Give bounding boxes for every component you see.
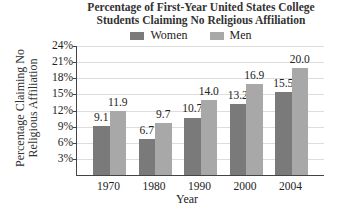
bar-men-1990 (201, 100, 218, 175)
y-tick-mark (73, 46, 77, 47)
chart-title: Percentage of First-Year United States C… (60, 1, 342, 27)
bar-men-2004 (292, 68, 309, 176)
y-tick-mark (73, 94, 77, 95)
bar-women-1970 (93, 126, 110, 175)
legend-label-men: Men (230, 28, 252, 43)
x-tick-label: 1970 (89, 180, 129, 192)
x-tick-label: 1990 (180, 180, 220, 192)
bar-women-2004 (275, 92, 292, 175)
chart-title-line-1: Percentage of First-Year United States C… (60, 1, 342, 14)
bar-value-label: 20.0 (285, 53, 315, 65)
bar-value-label: 14.0 (194, 85, 224, 97)
bar-men-2000 (246, 84, 263, 175)
y-tick-label: 21% (33, 55, 73, 67)
bar-value-label: 11.9 (103, 96, 133, 108)
x-tick-label: 2004 (271, 180, 311, 192)
legend-label-women: Women (150, 28, 187, 43)
y-tick-label: 24% (33, 39, 73, 51)
plot-area: 9.111.96.79.710.714.013.216.915.520.0 (76, 46, 324, 176)
bar-value-label: 9.7 (148, 108, 178, 120)
gridline (77, 46, 324, 47)
y-tick-label: 6% (33, 136, 73, 148)
y-tick-mark (73, 159, 77, 160)
y-tick-label: 9% (33, 120, 73, 132)
bar-women-2000 (230, 104, 247, 175)
y-tick-label: 3% (33, 152, 73, 164)
x-tick-label: 2000 (225, 180, 265, 192)
x-axis-label: Year (176, 192, 198, 207)
legend-swatch-men (210, 32, 224, 40)
y-tick-label: 18% (33, 71, 73, 83)
bar-value-label: 16.9 (239, 69, 269, 81)
y-tick-mark (73, 127, 77, 128)
y-tick-mark (73, 78, 77, 79)
y-tick-mark (73, 143, 77, 144)
chart-title-line-2: Students Claiming No Religious Affiliati… (60, 14, 342, 27)
y-tick-mark (73, 62, 77, 63)
legend-item-women: Women (130, 28, 187, 43)
bar-women-1990 (184, 118, 201, 176)
y-tick-mark (73, 111, 77, 112)
bar-women-1980 (139, 139, 156, 175)
legend-item-men: Men (210, 28, 252, 43)
bar-men-1980 (155, 123, 172, 175)
y-tick-label: 15% (33, 87, 73, 99)
x-tick-label: 1980 (134, 180, 174, 192)
legend-swatch-women (130, 32, 144, 40)
y-tick-label: 12% (33, 104, 73, 116)
bar-men-1970 (110, 111, 127, 175)
